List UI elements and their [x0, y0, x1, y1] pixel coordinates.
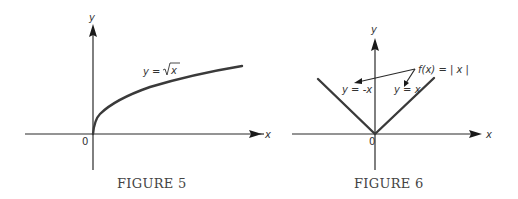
fig5-origin-label: 0: [82, 136, 88, 147]
fig5-x-axis-label: x: [264, 129, 271, 140]
fig5-curve-label: y = x: [142, 63, 180, 77]
figures-canvas: x y 0 y = x FIGURE 5 x y 0: [0, 0, 518, 199]
fig6-right-branch-label: y = x: [393, 84, 421, 95]
fig6-left-branch-label: y = -x: [341, 84, 372, 95]
fig5-sqrt-curve: [93, 66, 242, 134]
fig5-curve-label-prefix: y =: [142, 66, 160, 77]
figure-5: x y 0 y = x FIGURE 5: [25, 12, 271, 191]
fig6-x-axis-label: x: [485, 129, 492, 140]
fig5-y-axis-label: y: [88, 12, 96, 23]
figure-6: x y 0 f(x) = | x | y = -x y = x FIGURE 6: [258, 24, 492, 191]
fig5-curve-label-radicand: x: [170, 65, 177, 76]
fig6-function-label: f(x) = | x |: [418, 64, 469, 76]
fig6-caption: FIGURE 6: [354, 176, 424, 191]
fig6-pointer-left: [358, 69, 415, 82]
fig5-caption: FIGURE 5: [117, 176, 187, 191]
fig6-y-axis-label: y: [370, 24, 378, 35]
fig6-origin-label: 0: [369, 136, 375, 147]
